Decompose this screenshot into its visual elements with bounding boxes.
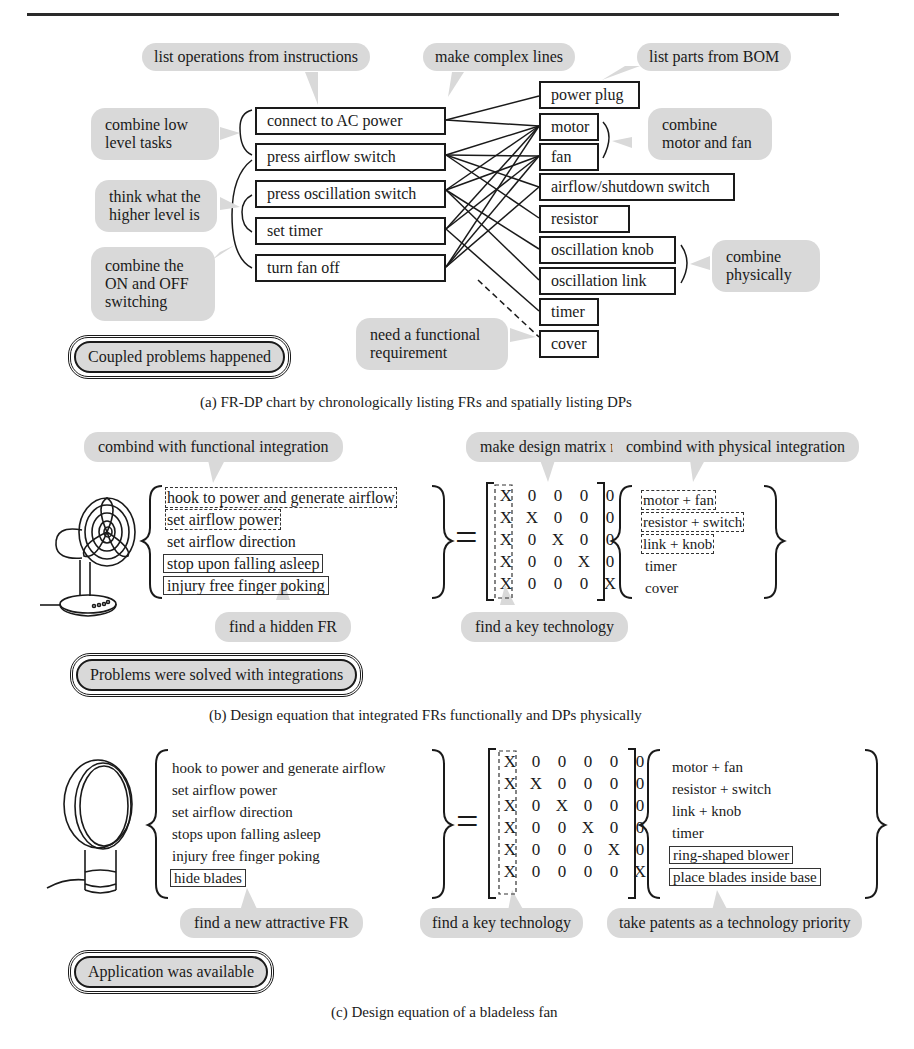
callout-hidden-fr: find a hidden FR [215,612,351,642]
callout-combine-motor-fan: combine motor and fan [648,108,772,160]
status-badge-available: Application was available [68,950,274,994]
fr-item: set airflow power [167,510,279,530]
callout-functional-integration: combind with functional integration [84,432,343,462]
bladeless-fan-icon [47,760,132,893]
callout-combine-low-level: combine low level tasks [91,108,219,160]
standard-fan-icon [40,498,135,616]
dp-item: resistor + switch [643,512,742,532]
status-badge-solved: Problems were solved with integrations [70,653,363,697]
callout-new-fr: find a new attractive FR [180,908,363,938]
dp-box: motor [539,113,599,141]
fr-item: hook to power and generate airflow [167,488,395,508]
fr-item-hidden: injury free finger poking [163,576,329,596]
dp-item-new: ring-shaped blower [669,845,793,865]
callout-list-parts: list parts from BOM [637,43,791,71]
dp-item: timer [645,556,677,576]
callout-patents: take patents as a technology priority [607,908,862,938]
fr-box: press oscillation switch [255,180,446,208]
dp-item: motor + fan [643,490,714,510]
equals-sign: = [455,518,478,558]
dp-item: timer [672,823,704,843]
dp-box: airflow/shutdown switch [539,173,735,201]
design-matrix-c: X00000 XX0000 X0X000 X00X00 X000X0 X0000… [497,751,653,883]
fr-item: set airflow power [172,780,277,800]
fr-item: stops upon falling asleep [172,824,321,844]
dp-box: power plug [539,81,640,109]
fr-item-hidden: stop upon falling asleep [163,554,323,574]
callout-combine-on-off: combine the ON and OFF switching [91,247,215,321]
dp-item: link + knob [643,534,712,554]
callout-key-technology-b: find a key technology [461,612,628,642]
dp-box: oscillation link [539,267,676,295]
fr-item-new: hide blades [170,868,246,888]
status-text: Coupled problems happened [74,341,285,373]
fr-box: connect to AC power [255,107,446,135]
caption-a: (a) FR-DP chart by chronologically listi… [200,394,632,411]
dp-box: resistor [539,205,630,233]
dp-item-new: place blades inside base [669,867,821,887]
callout-physical-integration: combind with physical integration [612,432,859,462]
fr-box: set timer [255,217,446,245]
dp-item: resistor + switch [672,779,771,799]
status-text: Problems were solved with integrations [76,659,357,691]
dp-box: cover [539,330,599,358]
dp-box: timer [539,298,599,326]
callout-need-fr: need a functional requirement [356,318,508,370]
callout-key-technology-c: find a key technology [420,908,583,938]
callout-think-higher: think what the higher level is [95,180,217,232]
fr-item: hook to power and generate airflow [172,758,386,778]
design-matrix-b: X0000 XX000 X0X00 X00X0 X000X [493,485,623,595]
fr-item: set airflow direction [172,802,293,822]
fr-box: press airflow switch [255,143,446,171]
callout-list-operations: list operations from instructions [142,43,370,71]
status-text: Application was available [74,956,268,988]
callout-combine-physically: combine physically [712,240,820,292]
dp-item: motor + fan [672,757,743,777]
fr-box: turn fan off [255,254,446,282]
caption-c: (c) Design equation of a bladeless fan [331,1004,558,1021]
dp-box: fan [539,143,599,171]
callout-complex-lines: make complex lines [423,43,575,71]
status-badge-coupled: Coupled problems happened [68,335,291,379]
fr-item: set airflow direction [167,532,296,552]
dp-item: link + knob [672,801,741,821]
dp-item: cover [645,578,678,598]
fr-item: injury free finger poking [172,846,320,866]
dp-box: oscillation knob [539,236,676,264]
equals-sign: = [456,802,479,842]
caption-b: (b) Design equation that integrated FRs … [209,707,642,724]
